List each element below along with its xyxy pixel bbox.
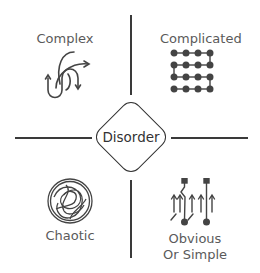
tangled-arrows-icon [44,48,92,100]
horizontal-axis-left [15,137,92,139]
simple-label: Or Simple [155,247,235,263]
vertical-axis-top [130,15,132,95]
obvious-label: Obvious [160,231,230,247]
complicated-label: Complicated [160,31,240,47]
disorder-label: Disorder [91,129,171,145]
parallel-arrows-icon [170,178,218,226]
scribble-circle-icon [46,177,94,225]
complex-label: Complex [30,31,100,47]
vertical-axis-bottom [130,180,132,258]
horizontal-axis-right [171,137,248,139]
dot-grid-flow-icon [170,49,216,97]
chaotic-label: Chaotic [35,228,105,244]
